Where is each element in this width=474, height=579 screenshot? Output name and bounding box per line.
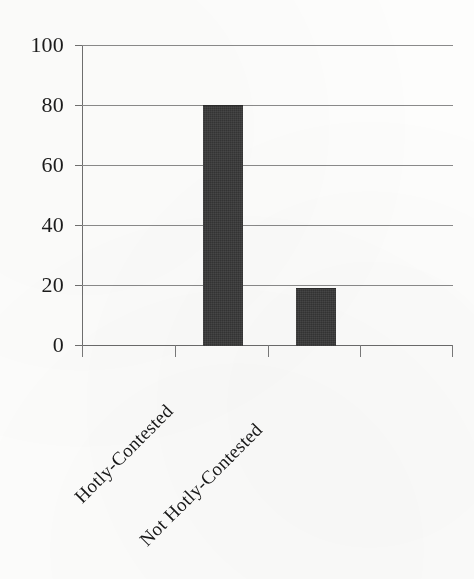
y-axis-labels: 100 80 60 40 20 0 [0, 0, 64, 579]
x-category-label-not-hotly-contested: Not Hotly-Contested [136, 420, 266, 550]
bar-not-hotly-contested [296, 288, 336, 346]
gridline-60 [82, 165, 453, 166]
y-tick-mark-100 [75, 45, 82, 46]
y-tick-label-80: 80 [42, 94, 64, 116]
y-tick-mark-40 [75, 225, 82, 226]
x-tick-mark-3 [360, 345, 361, 357]
x-tick-mark-4 [452, 345, 453, 357]
y-tick-mark-60 [75, 165, 82, 166]
chart-figure: 100 80 60 40 20 0 Hotly-Contested Not Ho… [0, 0, 474, 579]
y-tick-mark-20 [75, 285, 82, 286]
y-tick-label-60: 60 [42, 154, 64, 176]
y-tick-mark-0 [75, 345, 82, 346]
x-tick-mark-1 [175, 345, 176, 357]
y-tick-label-40: 40 [42, 214, 64, 236]
y-tick-label-0: 0 [53, 334, 64, 356]
gridline-80 [82, 105, 453, 106]
gridline-100 [82, 45, 453, 46]
x-tick-mark-2 [268, 345, 269, 357]
y-tick-label-100: 100 [30, 34, 64, 56]
x-tick-mark-0 [82, 345, 83, 357]
bar-hotly-contested [203, 105, 243, 346]
plot-area [82, 45, 453, 345]
gridline-20 [82, 285, 453, 286]
y-tick-label-20: 20 [42, 274, 64, 296]
gridline-40 [82, 225, 453, 226]
y-tick-mark-80 [75, 105, 82, 106]
x-category-label-hotly-contested: Hotly-Contested [71, 401, 177, 507]
